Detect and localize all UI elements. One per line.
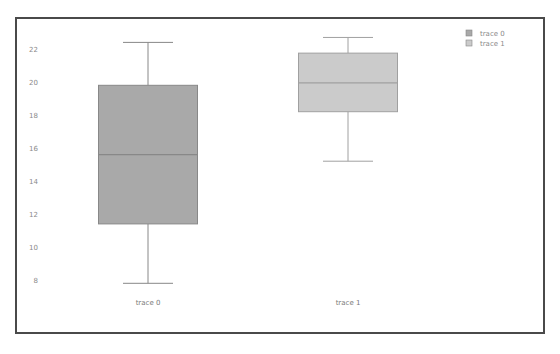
- y-tick-label: 22: [29, 46, 38, 54]
- legend[interactable]: trace 0trace 1: [466, 30, 505, 48]
- legend-label: trace 0: [480, 30, 505, 38]
- y-tick-label: 20: [29, 79, 38, 87]
- legend-item-trace-1[interactable]: trace 1: [466, 40, 505, 48]
- x-category-label: trace 0: [136, 299, 161, 307]
- y-tick-label: 12: [29, 211, 38, 219]
- legend-label: trace 1: [480, 40, 505, 48]
- box-traces: [99, 37, 398, 283]
- y-tick-label: 8: [34, 277, 38, 285]
- box-plot: 810121416182022 trace 0trace 1 trace 0tr…: [0, 0, 560, 354]
- y-tick-label: 10: [29, 244, 38, 252]
- x-category-label: trace 1: [336, 299, 361, 307]
- legend-item-trace-0[interactable]: trace 0: [466, 30, 505, 38]
- legend-swatch-icon: [466, 30, 472, 36]
- y-axis: 810121416182022: [29, 46, 38, 285]
- y-tick-label: 16: [29, 145, 38, 153]
- box-trace-0[interactable]: [99, 42, 198, 283]
- legend-swatch-icon: [466, 40, 472, 46]
- y-tick-label: 14: [29, 178, 38, 186]
- x-axis: trace 0trace 1: [136, 299, 361, 307]
- box-trace-1[interactable]: [299, 37, 398, 161]
- y-tick-label: 18: [29, 112, 38, 120]
